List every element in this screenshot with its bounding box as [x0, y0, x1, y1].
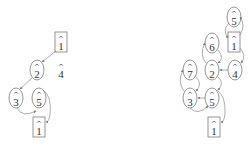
edge-R7-R3: [196, 77, 200, 91]
node-ellipse-4: ^ 4: [228, 60, 242, 80]
edge-L3-L5: [17, 108, 36, 114]
node-plain-4: ^ 4: [58, 63, 64, 80]
node-ellipse-3: ^ 3: [183, 88, 197, 108]
node-ellipse-7: ^ 7: [183, 60, 197, 80]
node-label: 4: [232, 68, 238, 80]
node-ellipse-2: ^ 2: [205, 60, 219, 80]
node-label: 2: [34, 68, 40, 80]
edge-R6-R2: [218, 50, 222, 63]
node-label: 5: [231, 15, 237, 27]
edge-L1top-L2: [42, 51, 56, 62]
node-ellipse-2: ^ 2: [30, 60, 44, 80]
edge-R2-R5bot: [218, 77, 222, 90]
node-label: 6: [209, 41, 215, 53]
node-label: 3: [13, 96, 19, 108]
node-ellipse-5: ^ 5: [32, 88, 46, 108]
diagram-canvas: ^ 1 ^ 2 ^ 4 ^ 3 ^ 5 ^ 1: [0, 0, 252, 144]
node-ellipse-6: ^ 6: [205, 33, 219, 53]
node-label: 7: [187, 68, 193, 80]
node-label: 2: [209, 68, 215, 80]
right-graph: ^ 5 ^ 1 ^ 6 ^ 2 ^ 4 ^: [180, 7, 244, 137]
left-graph: ^ 1 ^ 2 ^ 4 ^ 3 ^ 5 ^ 1: [9, 32, 67, 137]
edge-R1top-R4: [240, 48, 244, 63]
node-label: 1: [58, 40, 64, 52]
node-ellipse-3: ^ 3: [9, 88, 23, 108]
edge-L2-L3: [20, 78, 32, 89]
node-box-1-bottom: ^ 1: [208, 117, 220, 137]
node-label: 4: [58, 68, 64, 80]
node-box-1-top: ^ 1: [228, 32, 240, 52]
node-label: 1: [211, 125, 217, 137]
edge-R5top-R1top: [225, 23, 229, 38]
node-label: 5: [209, 96, 215, 108]
node-ellipse-5-top: ^ 5: [227, 7, 241, 27]
node-box-1-bottom: ^ 1: [33, 117, 45, 137]
node-label: 5: [36, 96, 42, 108]
node-label: 1: [36, 125, 42, 137]
node-ellipse-5-bottom: ^ 5: [205, 88, 219, 108]
node-box-1-top: ^ 1: [55, 32, 67, 52]
node-label: 3: [187, 96, 193, 108]
node-label: 1: [231, 40, 237, 52]
